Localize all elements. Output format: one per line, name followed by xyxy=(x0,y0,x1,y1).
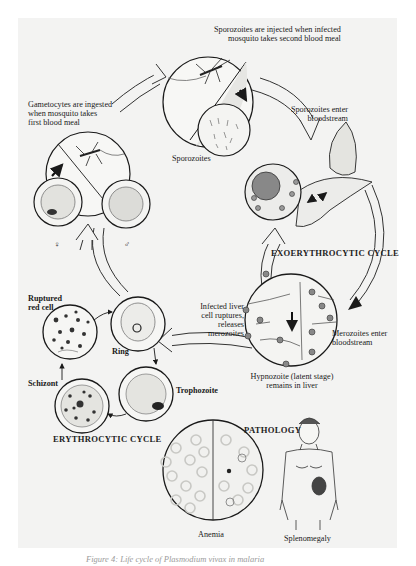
label-line: bloodstream xyxy=(332,338,387,347)
heading-pathology: PATHOLOGY xyxy=(244,425,301,435)
sporozoites-circle xyxy=(198,104,250,156)
heading-exoerythrocytic-cycle: EXOERYTHROCYTIC CYCLE xyxy=(271,248,399,258)
male-symbol: ♂ xyxy=(124,240,130,249)
label-line: cell ruptures, xyxy=(180,311,244,320)
label-anemia: Anemia xyxy=(198,530,224,539)
label-sporozoites-enter: Sporozoites enter bloodstream xyxy=(290,105,348,123)
label-trophozoite: Trophozoite xyxy=(176,386,218,395)
label-ruptured-red-cell: Ruptured red cell xyxy=(28,294,62,312)
label-schizont: Schizont xyxy=(28,379,58,388)
hypnozoite-circle xyxy=(243,271,337,367)
label-line: merozoites xyxy=(180,329,244,338)
label-sporozoites: Sporozoites xyxy=(172,154,211,163)
label-splenomegaly: Splenomegaly xyxy=(284,534,331,543)
label-line: Infected liver xyxy=(180,302,244,311)
ruptured-red-cell xyxy=(43,305,97,359)
label-line: red cell xyxy=(28,303,62,312)
figure-caption: Figure 4: Life cycle of Plasmodium vivax… xyxy=(86,554,264,564)
label-gametocytes-ingested: Gametocytes are ingested when mosquito t… xyxy=(28,100,112,127)
label-line: mosquito takes second blood meal xyxy=(214,34,341,43)
female-symbol: ♀ xyxy=(54,240,60,249)
heading-erythrocytic-cycle: ERYTHROCYTIC CYCLE xyxy=(53,434,161,444)
erythrocytic-cycle xyxy=(43,297,173,433)
label-line: remains in liver xyxy=(240,381,344,390)
label-line: when mosquito takes xyxy=(28,109,112,118)
label-line: Sporozoites are injected when infected xyxy=(214,25,341,34)
label-line: Merozoites enter xyxy=(332,329,387,338)
label-line: Ruptured xyxy=(28,294,62,303)
label-ring: Ring xyxy=(112,347,129,356)
label-infected-liver: Infected liver cell ruptures, releases m… xyxy=(180,302,244,338)
liver-illustration xyxy=(245,122,372,227)
anemia-smear xyxy=(161,420,263,520)
label-sporozoites-injected: Sporozoites are injected when infected m… xyxy=(214,25,341,43)
label-line: Gametocytes are ingested xyxy=(28,100,112,109)
label-line: Sporozoites enter xyxy=(290,105,348,114)
label-line: first blood meal xyxy=(28,118,112,127)
label-hypnozoite: Hypnozoite (latent stage) remains in liv… xyxy=(240,372,344,390)
label-line: releases xyxy=(180,320,244,329)
label-line: bloodstream xyxy=(290,114,348,123)
life-cycle-diagram xyxy=(0,0,416,566)
label-merozoites-enter: Merozoites enter bloodstream xyxy=(332,329,387,347)
mosquito-bite-circle xyxy=(163,57,253,156)
gametocyte-circle xyxy=(34,132,150,228)
label-line: Hypnozoite (latent stage) xyxy=(240,372,344,381)
